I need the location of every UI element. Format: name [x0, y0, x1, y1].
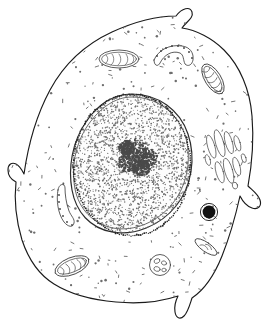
- multivesicular-body: [150, 255, 171, 276]
- lysosome: [200, 203, 217, 220]
- mitochondrion-upper-left: [99, 50, 139, 68]
- cell-diagram-figure: [0, 0, 276, 326]
- cell-illustration: [0, 0, 276, 326]
